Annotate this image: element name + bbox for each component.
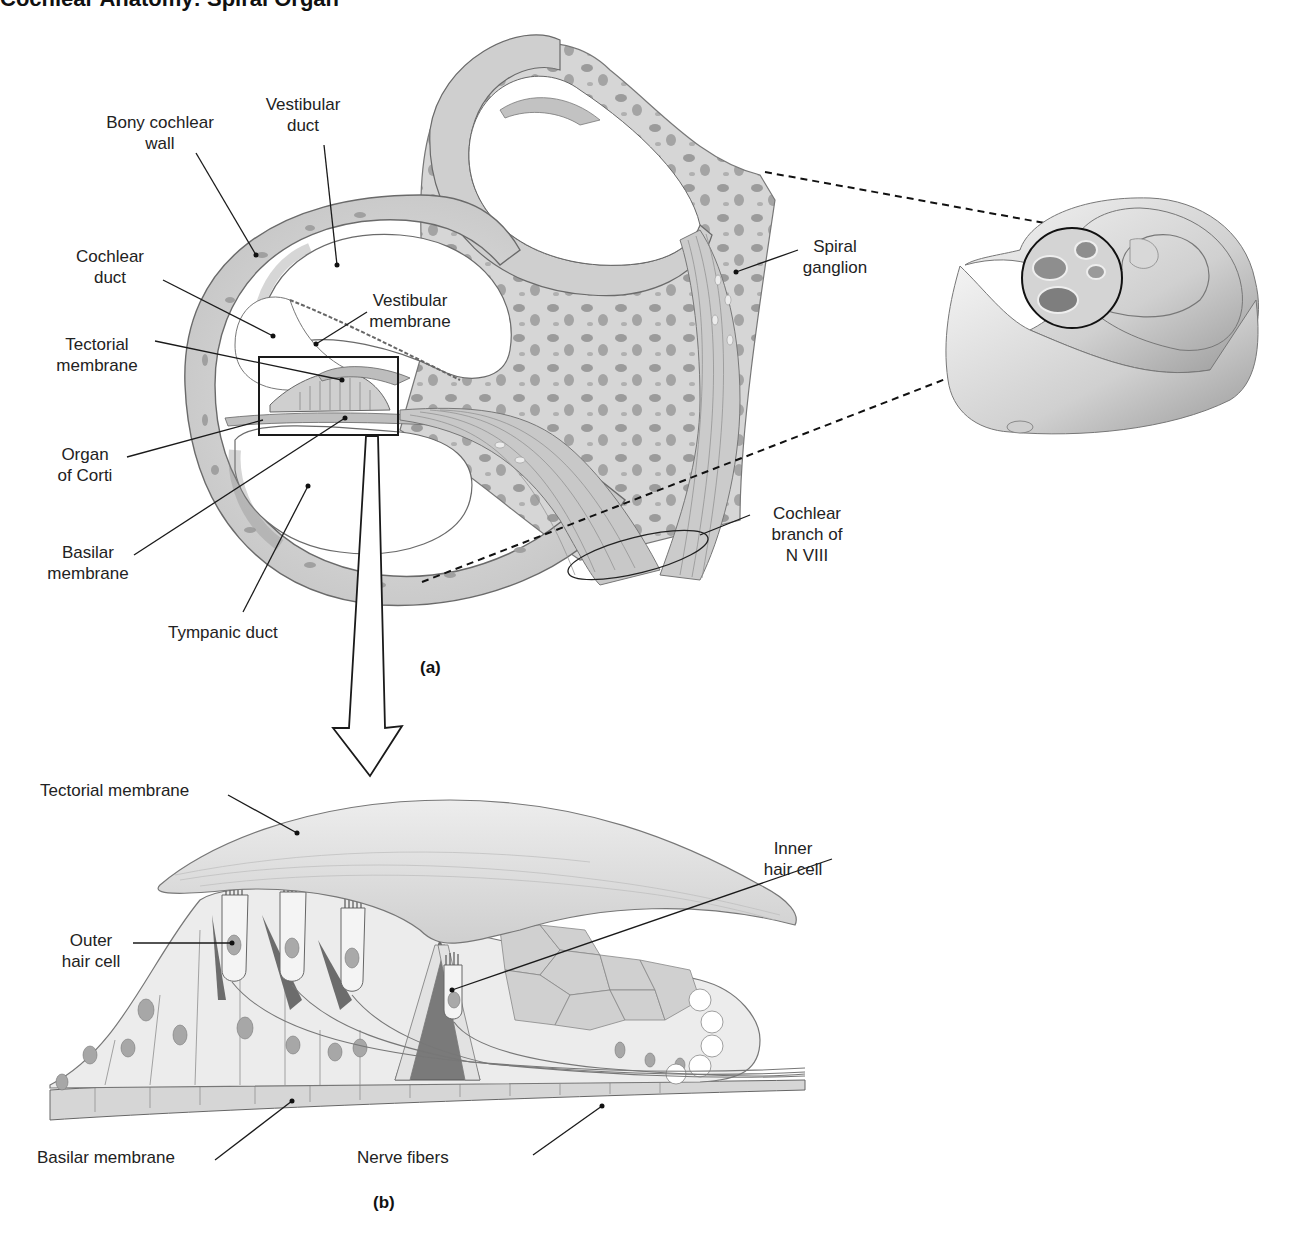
label-organ-of-corti: Organ of Corti bbox=[40, 444, 130, 486]
label-vestibular-membrane: Vestibular membrane bbox=[355, 290, 465, 332]
label-tectorial-membrane-a: Tectorial membrane bbox=[42, 334, 152, 376]
label-outer-hair-cell: Outer hair cell bbox=[46, 930, 136, 972]
label-cochlear-branch: Cochlear branch of N VIII bbox=[752, 503, 862, 566]
label-bony-cochlear-wall: Bony cochlear wall bbox=[95, 112, 225, 154]
label-inner-hair-cell: Inner hair cell bbox=[748, 838, 838, 880]
organ-of-corti-detail bbox=[50, 800, 805, 1120]
cochlea-inset bbox=[946, 198, 1259, 434]
label-nerve-fibers: Nerve fibers bbox=[357, 1147, 449, 1168]
label-cochlear-duct: Cochlear duct bbox=[60, 246, 160, 288]
label-tectorial-membrane-b: Tectorial membrane bbox=[40, 780, 189, 801]
diagram-artwork bbox=[0, 0, 1290, 1235]
label-basilar-membrane-a: Basilar membrane bbox=[38, 542, 138, 584]
panel-tag-a: (a) bbox=[420, 658, 441, 678]
label-basilar-membrane-b: Basilar membrane bbox=[37, 1147, 175, 1168]
label-spiral-ganglion: Spiral ganglion bbox=[785, 236, 885, 278]
label-vestibular-duct: Vestibular duct bbox=[248, 94, 358, 136]
label-tympanic-duct: Tympanic duct bbox=[168, 622, 278, 643]
panel-tag-b: (b) bbox=[373, 1193, 395, 1213]
